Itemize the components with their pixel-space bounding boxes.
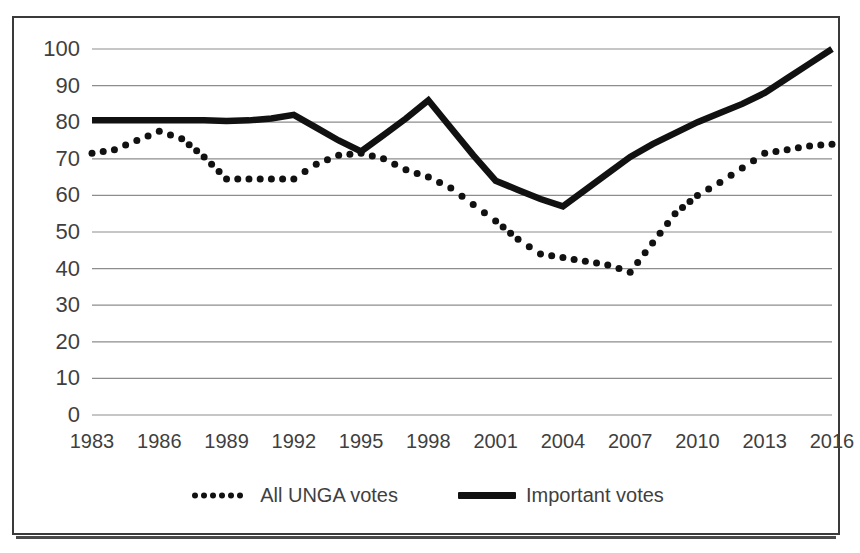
dotted-line-dot: [500, 224, 507, 231]
y-axis-tick-label: 70: [14, 148, 80, 170]
dotted-line-dot: [716, 179, 723, 186]
solid-line-swatch-icon: [458, 492, 516, 499]
dotted-line-dot: [679, 204, 686, 211]
dotted-line-dot: [664, 220, 671, 227]
dotted-line-dot: [657, 230, 664, 237]
legend-label-all-unga-votes: All UNGA votes: [260, 484, 398, 507]
dotted-line-dot: [784, 146, 791, 153]
gridlines: [92, 49, 832, 415]
dotted-line-dot: [89, 150, 96, 157]
dotted-line-dot: [739, 164, 746, 171]
dotted-line-swatch-icon: [192, 492, 250, 499]
y-axis-tick-label: 100: [14, 38, 80, 60]
x-axis-tick-label: 1992: [259, 431, 329, 451]
dotted-line-dot: [290, 175, 297, 182]
y-axis-tick-label: 20: [14, 331, 80, 353]
dotted-line-dot: [100, 148, 107, 155]
dotted-line-dot: [208, 161, 215, 168]
dotted-line-dot: [425, 174, 432, 181]
dotted-line-dot: [526, 243, 533, 250]
dotted-line-dot: [414, 170, 421, 177]
dotted-line-dot: [537, 250, 544, 257]
y-axis-tick-label: 90: [14, 75, 80, 97]
dotted-line-dot: [795, 144, 802, 151]
dotted-line-dot: [223, 175, 230, 182]
dotted-line-dot: [111, 146, 118, 153]
dotted-line-dot: [193, 147, 200, 154]
x-axis-tick-label: 1998: [393, 431, 463, 451]
dotted-line-dot: [156, 128, 163, 135]
x-axis-tick-label: 2004: [528, 431, 598, 451]
dotted-line-dot: [402, 166, 409, 173]
dotted-line-dot: [686, 198, 693, 205]
dotted-line-dot: [672, 210, 679, 217]
dotted-line-dot: [761, 150, 768, 157]
dotted-line-dot: [642, 249, 649, 256]
legend-label-important-votes: Important votes: [526, 484, 664, 507]
dotted-line-dot: [806, 142, 813, 149]
y-axis-tick-label: 60: [14, 184, 80, 206]
y-axis-tick-label: 80: [14, 111, 80, 133]
dotted-line-dot: [627, 269, 634, 276]
dotted-line-dot: [279, 175, 286, 182]
dotted-line-dot: [604, 261, 611, 268]
dotted-line-dot: [268, 175, 275, 182]
y-axis-tick-label: 30: [14, 294, 80, 316]
dotted-line-dot: [257, 175, 264, 182]
dotted-line-dot: [369, 153, 376, 160]
dotted-line-dot: [507, 230, 514, 237]
dotted-line-dot: [201, 153, 208, 160]
chart-frame: 0102030405060708090100 19831986198919921…: [12, 16, 840, 535]
dotted-line-dot: [470, 201, 477, 208]
dotted-line-dot: [335, 152, 342, 159]
dotted-line-dot: [593, 260, 600, 267]
dotted-line-dot: [515, 236, 522, 243]
dotted-line-dot: [122, 142, 129, 149]
dotted-line-dot: [728, 172, 735, 179]
dotted-line-dot: [145, 132, 152, 139]
legend-item-important-votes[interactable]: Important votes: [458, 484, 664, 507]
y-axis-tick-label: 40: [14, 258, 80, 280]
dotted-line-dot: [133, 137, 140, 144]
plot-area: 0102030405060708090100 19831986198919921…: [14, 18, 842, 537]
dotted-line-dot: [234, 175, 241, 182]
dotted-line-dot: [216, 168, 223, 175]
dotted-line-dot: [772, 148, 779, 155]
dotted-line-dot: [582, 258, 589, 265]
dotted-line-dot: [705, 186, 712, 193]
x-axis-tick-label: 2013: [730, 431, 800, 451]
series-layer: [89, 49, 836, 276]
dotted-line-dot: [649, 239, 656, 246]
x-axis-tick-label: 1983: [57, 431, 127, 451]
x-axis-tick-label: 1989: [192, 431, 262, 451]
legend-item-all-unga-votes[interactable]: All UNGA votes: [192, 484, 398, 507]
dotted-line-dot: [817, 142, 824, 149]
dotted-line-dot: [380, 155, 387, 162]
dotted-line-dot: [178, 135, 185, 142]
y-axis-tick-label: 10: [14, 367, 80, 389]
dotted-line-dot: [346, 151, 353, 158]
chart-page: 0102030405060708090100 19831986198919921…: [0, 0, 860, 553]
dotted-line-dot: [167, 132, 174, 139]
dotted-line-dot: [829, 141, 836, 148]
dotted-line-dot: [447, 185, 454, 192]
dotted-line-dot: [559, 254, 566, 261]
dotted-line-dot: [313, 161, 320, 168]
dotted-line-dot: [481, 209, 488, 216]
dotted-line-dot: [245, 175, 252, 182]
x-axis-tick-label: 1986: [124, 431, 194, 451]
dotted-line-dot: [186, 141, 193, 148]
dotted-line-dot: [548, 252, 555, 259]
dotted-line-dot: [436, 179, 443, 186]
dotted-line-dot: [634, 259, 641, 266]
y-axis-tick-label: 50: [14, 221, 80, 243]
x-axis-tick-label: 2001: [461, 431, 531, 451]
x-axis-tick-label: 1995: [326, 431, 396, 451]
dotted-line-dot: [459, 193, 466, 200]
y-axis-tick-label: 0: [14, 404, 80, 426]
dotted-line-dot: [492, 218, 499, 225]
series-all-unga-votes: [89, 128, 836, 276]
dotted-line-dot: [324, 156, 331, 163]
dotted-line-dot: [615, 265, 622, 272]
dotted-line-dot: [571, 256, 578, 263]
